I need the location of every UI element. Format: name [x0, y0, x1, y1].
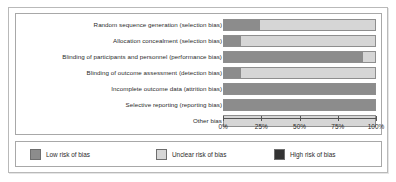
stacked-bar [223, 19, 376, 31]
bar-row-label: Random sequence generation (selection bi… [94, 17, 222, 33]
stacked-bar [223, 99, 376, 111]
axis-tick-label: 100% [368, 123, 384, 130]
bar-segment [224, 20, 260, 30]
legend-swatch [156, 149, 167, 160]
legend-swatch [274, 149, 285, 160]
x-axis: 0%25%50%75%100% [223, 118, 376, 136]
bar-row: Blinding of participants and personnel (… [16, 49, 381, 65]
plot-panel: Random sequence generation (selection bi… [15, 13, 382, 135]
axis-tick [300, 116, 301, 121]
stacked-bar [223, 67, 376, 79]
bar-row-label: Selective reporting (reporting bias) [126, 97, 222, 113]
bar-segment [224, 84, 375, 94]
bar-row-label: Incomplete outcome data (attrition bias) [111, 81, 222, 97]
bar-segment [224, 68, 241, 78]
axis-tick-label: 0% [218, 123, 227, 130]
axis-tick-label: 25% [255, 123, 268, 130]
bar-row: Selective reporting (reporting bias) [16, 97, 381, 113]
axis-tick-label: 50% [293, 123, 306, 130]
bar-row-label: Allocation concealment (selection bias) [113, 33, 222, 49]
bar-segment [224, 52, 363, 62]
bar-row: Random sequence generation (selection bi… [16, 17, 381, 33]
legend-item: Unclear risk of bias [156, 142, 226, 166]
axis-tick [338, 116, 339, 121]
legend-label: Low risk of bias [46, 151, 90, 158]
bar-row-label: Blinding of outcome assessment (detectio… [87, 65, 222, 81]
legend-label: High risk of bias [290, 151, 335, 158]
axis-tick [223, 116, 224, 121]
bar-row-label: Blinding of participants and personnel (… [62, 49, 222, 65]
bar-segment [224, 100, 375, 110]
bar-segment [363, 52, 375, 62]
bar-segment [241, 68, 375, 78]
stacked-bar [223, 35, 376, 47]
chart-legend: Low risk of biasUnclear risk of biasHigh… [15, 141, 382, 167]
stacked-bar [223, 51, 376, 63]
stacked-bar [223, 83, 376, 95]
bar-row: Blinding of outcome assessment (detectio… [16, 65, 381, 81]
bar-rows: Random sequence generation (selection bi… [16, 17, 381, 129]
legend-swatch [30, 149, 41, 160]
axis-tick [261, 116, 262, 121]
bar-row: Allocation concealment (selection bias) [16, 33, 381, 49]
axis-tick [376, 116, 377, 121]
legend-label: Unclear risk of bias [172, 151, 226, 158]
axis-tick-label: 75% [331, 123, 344, 130]
legend-item: Low risk of bias [30, 142, 90, 166]
bar-segment [241, 36, 375, 46]
bar-row: Incomplete outcome data (attrition bias) [16, 81, 381, 97]
bar-segment [260, 20, 375, 30]
bar-segment [224, 36, 241, 46]
risk-of-bias-figure: Random sequence generation (selection bi… [8, 7, 388, 173]
legend-item: High risk of bias [274, 142, 335, 166]
